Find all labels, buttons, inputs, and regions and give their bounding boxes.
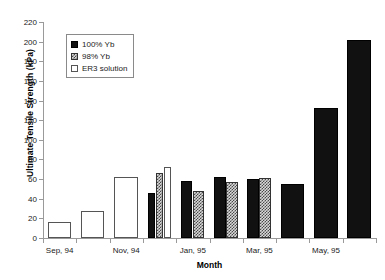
x-axis-tick — [76, 238, 77, 243]
x-axis-tick — [343, 238, 344, 243]
y-axis-tick — [39, 179, 44, 180]
bar — [148, 193, 155, 238]
legend-swatch-icon — [71, 53, 78, 60]
legend-item-label: ER3 solution — [82, 64, 127, 73]
x-axis-tick — [210, 238, 211, 243]
y-axis-tick-label: 220 — [24, 18, 37, 27]
y-axis-tick-label: 120 — [24, 116, 37, 125]
bar — [247, 179, 258, 238]
x-axis-tick-label: Jan, 95 — [180, 246, 206, 255]
y-axis-tick — [39, 140, 44, 141]
bar — [114, 177, 137, 238]
y-axis-tick — [39, 218, 44, 219]
y-axis-tick-label: 180 — [24, 57, 37, 66]
x-axis-tick — [376, 238, 377, 243]
bar — [214, 177, 225, 238]
y-axis-tick — [39, 61, 44, 62]
y-axis-tick — [39, 159, 44, 160]
y-axis-tick — [39, 81, 44, 82]
y-axis-tick-label: 80 — [28, 155, 37, 164]
bar — [314, 108, 337, 238]
x-axis-tick — [43, 238, 44, 243]
y-axis-tick-label: 40 — [28, 194, 37, 203]
y-axis-line — [43, 22, 44, 238]
legend-swatch-icon — [71, 41, 78, 48]
x-axis-tick — [309, 238, 310, 243]
bar — [181, 181, 192, 238]
y-axis-tick — [39, 22, 44, 23]
bar-chart: Ultimate Tensile Strength (kPa) 02040608… — [0, 0, 385, 280]
bar — [281, 184, 304, 238]
x-axis-tick-label: Mar, 95 — [246, 246, 273, 255]
legend-item-label: 100% Yb — [82, 40, 114, 49]
x-axis-tick — [143, 238, 144, 243]
bar — [193, 191, 204, 238]
bar — [81, 211, 104, 238]
chart-legend: 100% Yb98% YbER3 solution — [66, 34, 134, 78]
y-axis-tick-label: 200 — [24, 37, 37, 46]
x-axis-tick-label: May, 95 — [312, 246, 340, 255]
y-axis-tick — [39, 42, 44, 43]
y-axis-tick-label: 60 — [28, 175, 37, 184]
bar — [259, 178, 270, 238]
legend-item: 100% Yb — [71, 38, 127, 50]
y-axis-tick-label: 20 — [28, 214, 37, 223]
y-axis-tick-label: 160 — [24, 76, 37, 85]
legend-item: 98% Yb — [71, 50, 127, 62]
bar — [164, 167, 171, 238]
y-axis-tick-label: 100 — [24, 135, 37, 144]
bar — [226, 182, 237, 238]
x-axis-tick-label: Sep, 94 — [46, 246, 74, 255]
y-axis-tick — [39, 199, 44, 200]
x-axis-tick-label: Nov, 94 — [113, 246, 140, 255]
y-axis-tick-label: 0 — [33, 234, 37, 243]
y-axis-tick-label: 140 — [24, 96, 37, 105]
y-axis-tick — [39, 120, 44, 121]
bar — [48, 222, 71, 238]
y-axis-tick — [39, 101, 44, 102]
legend-item: ER3 solution — [71, 62, 127, 74]
x-axis-tick — [110, 238, 111, 243]
legend-swatch-icon — [71, 65, 78, 72]
x-axis-tick — [276, 238, 277, 243]
bar — [347, 40, 370, 238]
x-axis-tick — [243, 238, 244, 243]
x-axis-tick — [176, 238, 177, 243]
x-axis-title: Month — [43, 260, 376, 270]
legend-item-label: 98% Yb — [82, 52, 110, 61]
bar — [156, 173, 163, 238]
